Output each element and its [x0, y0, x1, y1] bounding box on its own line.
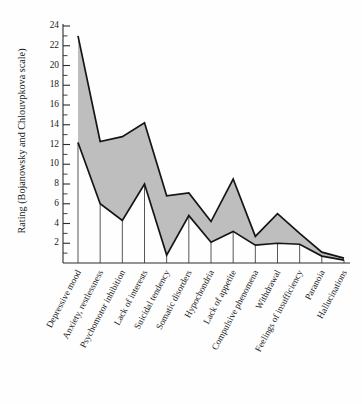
y-axis-title-label: Rating (Bojanowsky and Chlouvpkova scale…	[16, 48, 28, 233]
category-label: Paranoia	[303, 268, 327, 301]
y-tick-label: 12	[50, 139, 60, 149]
y-tick-label: 6	[54, 198, 59, 208]
range-band-fill	[78, 36, 344, 260]
y-tick-label: 4	[54, 218, 59, 228]
rating-range-area-chart: Rating (Bojanowsky and Chlouvpkova scale…	[0, 0, 362, 404]
chart-container: Rating (Bojanowsky and Chlouvpkova scale…	[0, 0, 362, 404]
y-tick-label: 2	[54, 237, 59, 247]
category-labels: Depressive moodAnxiety, restlessnessPsyc…	[44, 268, 349, 354]
y-tick-label: 24	[50, 20, 60, 30]
y-axis-title: Rating (Bojanowsky and Chlouvpkova scale…	[16, 48, 28, 233]
y-axis-ticks	[63, 26, 70, 253]
y-tick-label: 10	[50, 158, 60, 168]
y-tick-label: 18	[50, 79, 60, 89]
y-tick-label: 22	[50, 40, 60, 50]
y-tick-label: 8	[54, 178, 59, 188]
y-axis-tick-labels: 24681012141618202224	[50, 20, 60, 247]
plot-area	[78, 36, 344, 260]
y-axis: 24681012141618202224	[50, 20, 70, 263]
y-tick-label: 14	[50, 119, 60, 129]
y-tick-label: 20	[50, 60, 60, 70]
y-tick-label: 16	[50, 99, 60, 109]
